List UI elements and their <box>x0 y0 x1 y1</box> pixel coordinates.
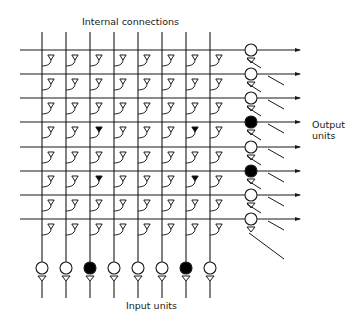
synapse-stem <box>66 108 75 114</box>
output-unit <box>245 213 257 225</box>
synapse-stem <box>114 108 123 114</box>
active-synapse-icon <box>192 176 198 181</box>
synapse-stem <box>210 157 219 163</box>
synapse-icon <box>120 55 126 60</box>
synapse-stem <box>114 60 123 66</box>
synapse-icon <box>216 176 222 181</box>
synapse-stem <box>66 84 75 90</box>
synapse-icon <box>216 200 222 205</box>
synapse-stem <box>162 132 171 138</box>
input-unit <box>132 262 144 274</box>
input-synapse-icon <box>86 276 94 281</box>
active-output-unit <box>245 116 257 128</box>
synapse-stem <box>42 132 51 138</box>
synapse-icon <box>120 176 126 181</box>
synapse-stem <box>186 84 195 90</box>
synapse-icon <box>192 224 198 229</box>
synapse-icon <box>120 79 126 84</box>
synapse-icon <box>168 152 174 157</box>
synapse-stem <box>138 157 147 163</box>
synapse-stem <box>138 205 147 211</box>
synapse-icon <box>72 224 78 229</box>
synapse-stem <box>186 205 195 211</box>
synapse-stem <box>66 205 75 211</box>
feedback-connection-line <box>247 131 261 140</box>
output-feedback-synapse-icon <box>247 179 255 184</box>
synapse-icon <box>144 152 150 157</box>
input-unit <box>36 262 48 274</box>
feedback-connection-line <box>247 204 261 213</box>
active-synapse-icon <box>192 127 198 132</box>
synapse-icon <box>120 224 126 229</box>
synapse-icon <box>216 79 222 84</box>
synapse-icon <box>144 176 150 181</box>
active-synapse-icon <box>96 127 102 132</box>
synapse-stem <box>66 181 75 187</box>
synapse-stem <box>42 205 51 211</box>
input-units-label: Input units <box>126 300 177 311</box>
output-feedback-synapse-icon <box>247 227 255 232</box>
feedback-connection-line <box>247 83 261 92</box>
synapse-stem <box>210 205 219 211</box>
synapse-icon <box>72 103 78 108</box>
synapse-icon <box>72 55 78 60</box>
output-feedback-synapse-icon <box>247 106 255 111</box>
synapse-stem <box>162 108 171 114</box>
synapse-stem <box>138 60 147 66</box>
synapse-stem <box>162 181 171 187</box>
synapse-stem <box>162 205 171 211</box>
synapse-stem <box>186 108 195 114</box>
synapse-icon <box>48 103 54 108</box>
input-synapse-icon <box>206 276 214 281</box>
synapse-stem <box>90 205 99 211</box>
synapse-stem <box>138 181 147 187</box>
synapse-stem <box>186 181 195 187</box>
synapse-icon <box>168 55 174 60</box>
output-unit <box>245 44 257 56</box>
synapse-stem <box>90 60 99 66</box>
synapse-icon <box>48 176 54 181</box>
synapse-icon <box>216 127 222 132</box>
output-units-label-line2: units <box>312 130 345 141</box>
input-synapse-icon <box>62 276 70 281</box>
synapse-stem <box>90 181 99 187</box>
synapse-icon <box>72 176 78 181</box>
synapse-icon <box>96 79 102 84</box>
synapse-icon <box>144 79 150 84</box>
synapse-stem <box>90 132 99 138</box>
input-unit <box>156 262 168 274</box>
synapse-stem <box>210 229 219 235</box>
synapse-icon <box>168 127 174 132</box>
synapse-icon <box>48 127 54 132</box>
synapse-icon <box>48 55 54 60</box>
output-feedback-synapse-icon <box>247 82 255 87</box>
input-synapse-icon <box>158 276 166 281</box>
synapse-stem <box>42 60 51 66</box>
synapse-stem <box>114 132 123 138</box>
synapse-stem <box>210 60 219 66</box>
synapse-stem <box>66 229 75 235</box>
synapse-icon <box>144 200 150 205</box>
feedback-connection-line <box>247 59 261 68</box>
synapse-stem <box>162 229 171 235</box>
feedback-connection-line <box>249 233 284 259</box>
synapse-icon <box>216 224 222 229</box>
synapse-icon <box>168 79 174 84</box>
synapse-icon <box>96 152 102 157</box>
synapse-icon <box>192 200 198 205</box>
synapse-icon <box>48 79 54 84</box>
feedback-connection-line <box>247 156 261 165</box>
synapse-icon <box>96 224 102 229</box>
synapse-icon <box>48 224 54 229</box>
synapse-stem <box>42 108 51 114</box>
synapse-stem <box>138 229 147 235</box>
synapse-stem <box>162 157 171 163</box>
active-input-unit <box>84 262 96 274</box>
output-feedback-synapse-icon <box>247 155 255 160</box>
output-feedback-synapse-icon <box>247 58 255 63</box>
output-unit <box>245 141 257 153</box>
synapse-stem <box>210 84 219 90</box>
synapse-stem <box>66 132 75 138</box>
synapse-stem <box>90 157 99 163</box>
